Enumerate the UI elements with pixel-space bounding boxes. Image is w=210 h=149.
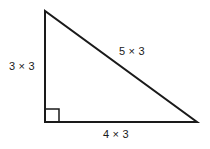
- horizontal-leg-label: 4 × 3: [103, 129, 129, 140]
- right-angle-marker-icon: [46, 109, 59, 122]
- triangle-outline: [45, 11, 197, 122]
- vertical-leg-label: 3 × 3: [9, 61, 35, 72]
- triangle-graphic: [0, 0, 210, 149]
- triangle-diagram: 3 × 3 5 × 3 4 × 3: [0, 0, 210, 149]
- hypotenuse-label: 5 × 3: [119, 46, 145, 57]
